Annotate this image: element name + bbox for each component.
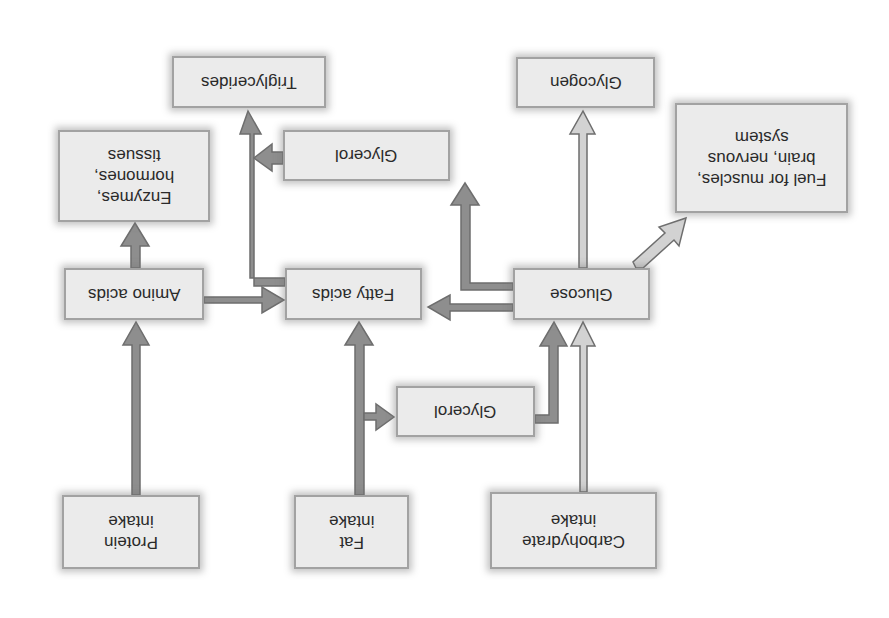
arrow-glucose-to-fatty (428, 295, 513, 320)
node-label: Glycerol (335, 145, 397, 166)
node-enzymes-hormones-tissues: Enzymes, hormones, tissues (58, 130, 210, 222)
node-protein-intake: Protein intake (62, 495, 200, 569)
arrow-fat-to-glycerol (364, 404, 394, 430)
arrow-fatty-to-triglycerides (240, 111, 285, 286)
node-glycogen: Glycogen (516, 57, 655, 108)
arrow-glycerol-to-glucose (535, 322, 567, 423)
nutrient-metabolism-diagram: Triglycerides Glycogen Enzymes, hormones… (0, 0, 889, 618)
node-label: Carbohydrate intake (522, 510, 625, 552)
node-label: Protein intake (104, 511, 158, 553)
node-carbohydrate-intake: Carbohydrate intake (490, 492, 657, 569)
node-amino-acids: Amino acids (64, 268, 204, 320)
node-label: Enzymes, hormones, tissues (94, 145, 174, 208)
node-label: Glycerol (434, 401, 496, 422)
node-glycerol-mid: Glycerol (396, 386, 535, 437)
node-triglycerides: Triglycerides (172, 56, 326, 108)
node-glycerol-top: Glycerol (283, 130, 450, 181)
node-fatty-acids: Fatty acids (285, 268, 422, 320)
node-label: Triglycerides (201, 72, 297, 93)
arrow-glucose-to-glycogen (570, 111, 595, 268)
arrow-fat-to-fatty (345, 322, 373, 495)
arrow-amino-to-enzymes (121, 223, 149, 268)
arrow-glycerol-to-triglycerides (254, 144, 283, 171)
node-label: Glycogen (550, 72, 622, 93)
node-label: Fat intake (329, 511, 374, 553)
node-label: Fatty acids (312, 284, 394, 305)
node-label: Glucose (550, 284, 612, 305)
arrow-carb-to-glucose (571, 322, 595, 492)
arrow-glucose-to-glycerol (451, 183, 513, 290)
node-label: Fuel for muscles, brain, nervous system (697, 127, 826, 190)
arrow-glucose-to-fuel (633, 218, 686, 268)
arrow-protein-to-amino (123, 322, 149, 495)
node-fuel-muscles-brain: Fuel for muscles, brain, nervous system (675, 103, 848, 213)
node-label: Amino acids (88, 284, 181, 305)
node-glucose: Glucose (513, 268, 650, 320)
arrow-amino-to-fatty (204, 287, 284, 313)
node-fat-intake: Fat intake (294, 495, 409, 569)
